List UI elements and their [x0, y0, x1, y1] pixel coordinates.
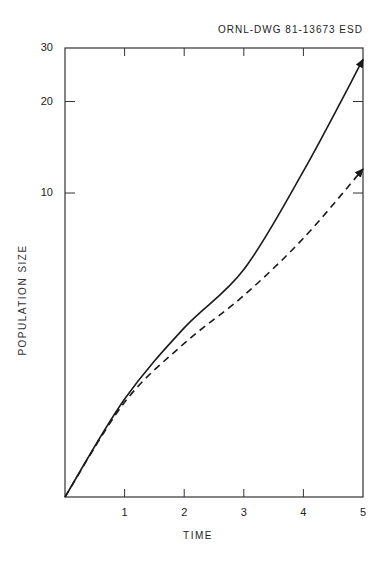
x-tick-label: 5: [360, 506, 366, 518]
x-tick-label: 2: [181, 506, 187, 518]
y-tick-label: 20: [23, 95, 53, 107]
y-tick-label: 30: [23, 41, 53, 53]
x-tick-label: 4: [300, 506, 306, 518]
plot-area: [0, 0, 386, 562]
x-axis-label: TIME: [183, 530, 213, 541]
series-solid-line: [65, 59, 363, 497]
y-tick-label: 10: [23, 186, 53, 198]
x-tick-label: 1: [122, 506, 128, 518]
x-tick-label: 3: [241, 506, 247, 518]
y-axis-label: POPULATION SIZE: [17, 244, 28, 355]
series-dashed-line: [65, 169, 363, 497]
plot-frame: [65, 48, 363, 497]
